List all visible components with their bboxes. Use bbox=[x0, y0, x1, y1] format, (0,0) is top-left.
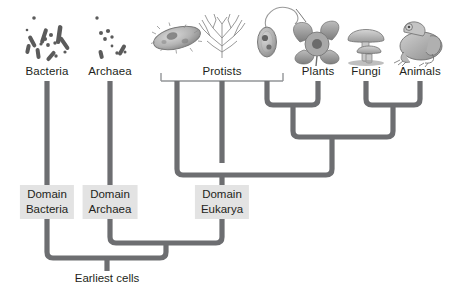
root-label-earliest-cells: Earliest cells bbox=[75, 272, 140, 284]
junction-archaea-eukarya bbox=[110, 231, 222, 243]
junction-eukarya-left bbox=[177, 163, 222, 175]
domain-eukarya-line2: Eukarya bbox=[201, 202, 243, 217]
branch-lines-layer bbox=[0, 0, 459, 296]
phylogenetic-tree-diagram: Bacteria Archaea Protists Plants Fungi A… bbox=[0, 0, 459, 296]
domain-archaea-line2: Archaea bbox=[89, 202, 132, 217]
domain-label-archaea: Domain Archaea bbox=[83, 185, 138, 219]
junction-root bbox=[47, 246, 166, 258]
domain-eukarya-line1: Domain bbox=[201, 187, 243, 202]
domain-bacteria-line2: Bacteria bbox=[26, 202, 68, 217]
domain-label-eukarya: Domain Eukarya bbox=[195, 185, 249, 219]
junction-fungi-animals bbox=[366, 93, 420, 105]
junction-crown-eukaryote bbox=[293, 125, 393, 137]
protists-group-bracket bbox=[161, 73, 283, 81]
junction-eukarya-right bbox=[222, 163, 332, 175]
junction-protist3-plants bbox=[267, 93, 318, 105]
domain-archaea-line1: Domain bbox=[89, 187, 132, 202]
domain-label-bacteria: Domain Bacteria bbox=[20, 185, 74, 219]
domain-bacteria-line1: Domain bbox=[26, 187, 68, 202]
